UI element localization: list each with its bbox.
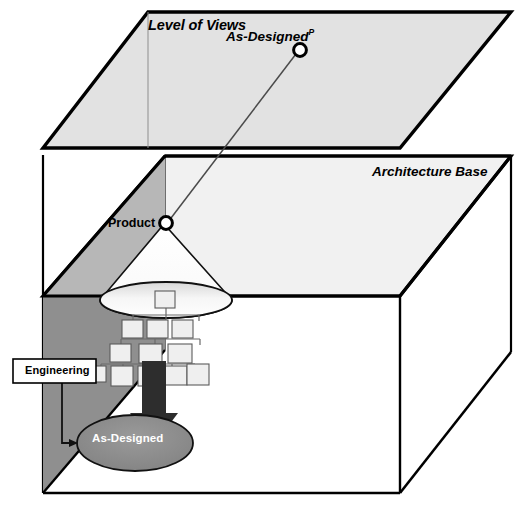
tree-box [187,364,209,385]
diagram-canvas: Level of Views As-DesignedP Architecture… [0,0,515,509]
tree-box [122,320,143,338]
bottom-box-bottom-right-diagonal [400,352,511,493]
tree-box [110,344,131,362]
product-node-circle[interactable] [160,217,173,230]
tree-box [168,344,192,363]
tree-box [155,291,175,308]
tree-box [111,366,133,386]
tree-box [172,320,193,338]
tree-box [147,320,168,338]
tree-box [165,366,187,385]
as-designed-source-ellipse[interactable] [77,415,193,471]
architecture-3d-diagram [0,0,515,509]
tree-box [139,344,162,363]
as-designed-view-node-circle[interactable] [294,44,307,57]
engineering-box[interactable] [13,359,96,383]
